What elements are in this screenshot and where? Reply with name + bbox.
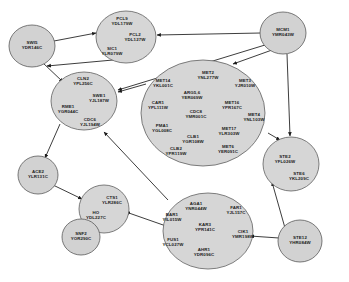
gene-orf-ydl179w: YDL179W [112,21,134,26]
node-met-cluster[interactable]: MET14YKL001CMET2YNL277WMET3YJR010WARG5,6… [141,60,265,166]
node-snf2[interactable]: SNF2YOR290C [62,219,100,255]
edge-mcm1-to-ste2-cluster [287,54,290,136]
gene-orf-ypr119w: YPR119W [166,151,188,156]
gene-orf-ydl127w: YDL127W [125,37,147,42]
gene-orf-ylr079w: YLR079W [102,51,124,56]
edge-ste12-to-aga1-cluster [250,236,279,238]
edge-swi5-to-pcl-cluster [54,33,96,41]
gene-orf-ymr198w: YMR198W [232,234,255,239]
gene-orf-ynl103w: YNL103W [244,117,266,122]
gene-orf-ygr044c: YGR044C [58,109,79,114]
gene-orf-yor290c: YOR290C [71,236,92,241]
gene-orf-ycl027w: YCL027W [163,242,185,247]
gene-orf-ynr044w: YNR044W [185,206,207,211]
edge-cln2-cluster-to-ace2 [45,124,60,158]
edge-mcm1-to-pcl-cluster [157,33,261,35]
gene-orf-ynl277w: YNL277W [198,75,220,80]
gene-orf-ykl209c: YKL209C [289,176,310,181]
gene-orf-ygr108w: YGR108W [182,139,204,144]
gene-orf-ylr286c: YLR286C [102,200,123,205]
node-cln2-cluster[interactable]: CLN2YPL256CSWE1YJL187WRME1YGR044CCDC6YJL… [51,72,117,130]
gene-orf-ydr096c: YDR096C [194,252,215,257]
edge-met-cluster-to-cln2-cluster [118,84,146,92]
gene-orf-yer091c: YER091C [218,149,239,154]
gene-orf-ypl256c: YPL256C [73,81,93,86]
node-swi5[interactable]: SWI5YDR146C [9,25,55,67]
gene-orf-ymr043w: YMR043W [272,32,295,37]
edge-pcl-cluster-to-swi5 [47,60,113,66]
gene-orf-yhr084w: YHR084W [289,240,311,245]
gene-orf-yfl026w: YFL026W [275,159,296,164]
gene-orf-ykl001c: YKL001C [153,83,174,88]
node-ace2[interactable]: ACE2YLR131C [18,156,58,194]
nodes-layer: SWI5YDR146CPCL9YDL179WPCL2YDL127WSIC1YLR… [9,11,322,269]
gene-orf-yjl157c: YJL157C [226,210,246,215]
gene-orf-ypl111w: YPL111W [148,105,169,110]
gene-orf-yjr010w: YJR010W [235,83,256,88]
gene-orf-ydl227c: YDL227C [86,215,107,220]
node-pcl-cluster[interactable]: PCL9YDL179WPCL2YDL127WSIC1YLR079W [96,11,156,63]
gene-regulatory-network-diagram: SWI5YDR146CPCL9YDL179WPCL2YDL127WSIC1YLR… [0,0,349,282]
gene-orf-ydr146c: YDR146C [22,45,43,50]
gene-orf-ypr167c: YPR167C [222,105,243,110]
node-aga1-cluster[interactable]: AGA1YNR044WFAR1YJL157CBAR1YIL015WKAR3YPR… [163,193,255,269]
edge-ace2-to-cts1-cluster [53,185,82,199]
gene-orf-ygl008c: YGL008C [152,128,173,133]
node-ste12[interactable]: STE12YHR084W [278,220,322,262]
edge-met-cluster-to-ste2-cluster [268,133,280,140]
gene-orf-yer069w: YER069W [181,95,203,100]
gene-orf-ylr303w: YLR303W [219,131,241,136]
gene-orf-ylr131c: YLR131C [28,174,49,179]
edge-aga1-cluster-to-cts1-cluster [126,212,166,226]
gene-orf-yil015w: YIL015W [163,217,183,222]
node-mcm1[interactable]: MCM1YMR043W [260,12,306,54]
node-ste2-cluster[interactable]: STE2YFL026WSTE6YKL209C [263,137,319,191]
gene-orf-ypr141c: YPR141C [195,227,216,232]
gene-orf-ymr001c: YMR001C [186,114,208,119]
gene-orf-yjl194w: YJL194W [80,122,101,127]
edge-mcm1-to-met-cluster [233,50,272,64]
gene-orf-yjl187w: YJL187W [89,98,110,103]
